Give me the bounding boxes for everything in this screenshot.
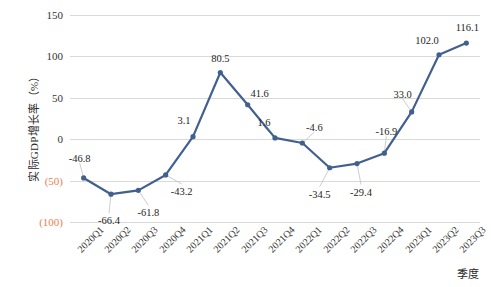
data-label: -29.4 (350, 186, 372, 197)
data-point-marker (327, 165, 332, 170)
data-label: 41.6 (250, 87, 268, 98)
x-axis-tick: 2020Q1 (75, 224, 106, 255)
label-leader-line (320, 168, 330, 187)
data-label: 33.0 (393, 88, 411, 99)
x-axis-tick: 2021Q3 (239, 224, 270, 255)
data-label: -34.5 (309, 188, 331, 199)
x-axis-title: 季度 (457, 265, 479, 281)
y-axis-tick: (100) (39, 216, 63, 228)
data-point-marker (190, 134, 195, 139)
label-leader-line (109, 194, 111, 213)
data-point-marker (436, 52, 441, 57)
x-axis-tick: 2021Q4 (266, 224, 297, 255)
x-axis-tick: 2021Q2 (212, 224, 243, 255)
line-chart: 实际GDP增长率（%） 150100500(50)(100) -46.8-66.… (0, 0, 491, 287)
x-axis-tick: 2022Q1 (294, 224, 325, 255)
data-point-marker (108, 192, 113, 197)
data-point-marker (272, 135, 277, 140)
label-leader-line (138, 190, 148, 205)
x-axis-tick: 2021Q1 (184, 224, 215, 255)
data-point-marker (382, 151, 387, 156)
x-axis-tick: 2023Q1 (403, 224, 434, 255)
x-axis-tick: 2020Q2 (102, 224, 133, 255)
x-axis-tick: 2022Q3 (348, 224, 379, 255)
x-axis-tick: 2022Q4 (376, 224, 407, 255)
data-point-marker (354, 161, 359, 166)
x-axis-tick: 2020Q4 (157, 224, 188, 255)
data-point-marker (409, 109, 414, 114)
series-polyline (84, 43, 467, 194)
y-axis-tick: 0 (58, 133, 64, 145)
x-axis-tick: 2023Q2 (430, 224, 461, 255)
y-axis-tick: (50) (45, 175, 63, 187)
label-leader-line (357, 164, 361, 185)
data-label: 1.6 (257, 116, 270, 127)
data-label: -46.8 (69, 152, 91, 163)
plot-area: 150100500(50)(100) -46.8-66.4-61.8-43.23… (70, 15, 480, 222)
label-leader-line (166, 175, 182, 184)
y-axis-tick: 150 (47, 9, 64, 21)
data-point-marker (245, 102, 250, 107)
data-label: 102.0 (415, 34, 439, 45)
data-point-marker (218, 70, 223, 75)
data-point-marker (464, 40, 469, 45)
data-label: -61.8 (137, 207, 159, 218)
data-point-marker (81, 175, 86, 180)
y-axis-tick: 100 (47, 50, 64, 62)
data-label: -16.9 (375, 126, 397, 137)
gridline (70, 222, 480, 223)
data-label: 3.1 (177, 114, 190, 125)
data-label: 80.5 (211, 52, 229, 63)
data-point-marker (300, 140, 305, 145)
x-axis-tick: 2023Q3 (458, 224, 489, 255)
data-label: -4.6 (306, 122, 323, 133)
x-axis-tick: 2020Q3 (130, 224, 161, 255)
data-point-marker (163, 172, 168, 177)
x-axis-tick: 2022Q2 (321, 224, 352, 255)
data-label: -43.2 (171, 185, 193, 196)
series-line (70, 15, 480, 222)
y-axis-tick: 50 (52, 92, 63, 104)
data-point-marker (136, 188, 141, 193)
data-label: 116.1 (456, 22, 479, 33)
y-axis-title: 实际GDP增长率（%） (25, 31, 41, 221)
x-axis-tick-labels: 2020Q12020Q22020Q32020Q42021Q12021Q22021… (70, 224, 480, 274)
